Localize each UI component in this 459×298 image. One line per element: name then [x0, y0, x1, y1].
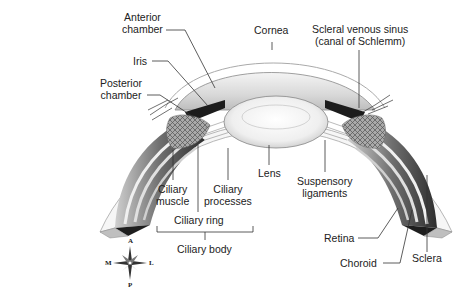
- label-line: Posterior: [100, 77, 142, 89]
- label-sclera: Sclera: [412, 252, 442, 264]
- label-ciliary-body: Ciliary body: [177, 243, 232, 255]
- compass-posterior-label: P: [128, 281, 132, 289]
- label-retina: Retina: [324, 232, 354, 244]
- label-suspensory-ligaments: Suspensory ligaments: [297, 175, 352, 199]
- label-line: Ciliary: [204, 183, 252, 195]
- label-anterior-chamber: Anterior chamber: [122, 11, 163, 35]
- label-line: chamber: [100, 89, 142, 101]
- compass-anterior-label: A: [128, 237, 133, 245]
- label-posterior-chamber: Posterior chamber: [100, 77, 142, 101]
- label-line: chamber: [122, 23, 163, 35]
- lens: [224, 96, 328, 148]
- label-line: processes: [204, 195, 252, 207]
- label-line: muscle: [156, 195, 189, 207]
- label-line: ligaments: [297, 187, 352, 199]
- label-line: (canal of Schlemm): [312, 35, 408, 47]
- label-line: Anterior: [122, 11, 163, 23]
- label-choroid: Choroid: [340, 257, 377, 269]
- label-line: Ciliary: [156, 183, 189, 195]
- compass-rose: [113, 246, 147, 280]
- label-lens: Lens: [258, 167, 281, 179]
- label-cornea: Cornea: [254, 24, 288, 36]
- label-ciliary-muscle: Ciliary muscle: [156, 183, 189, 207]
- label-line: Suspensory: [297, 175, 352, 187]
- label-iris: Iris: [133, 55, 147, 67]
- compass-lateral-label: L: [149, 259, 154, 267]
- label-ciliary-ring: Ciliary ring: [174, 214, 224, 226]
- label-line: Scleral venous sinus: [312, 23, 408, 35]
- compass-medial-label: M: [105, 259, 112, 267]
- label-ciliary-processes: Ciliary processes: [204, 183, 252, 207]
- label-scleral-venous-sinus: Scleral venous sinus (canal of Schlemm): [312, 23, 408, 47]
